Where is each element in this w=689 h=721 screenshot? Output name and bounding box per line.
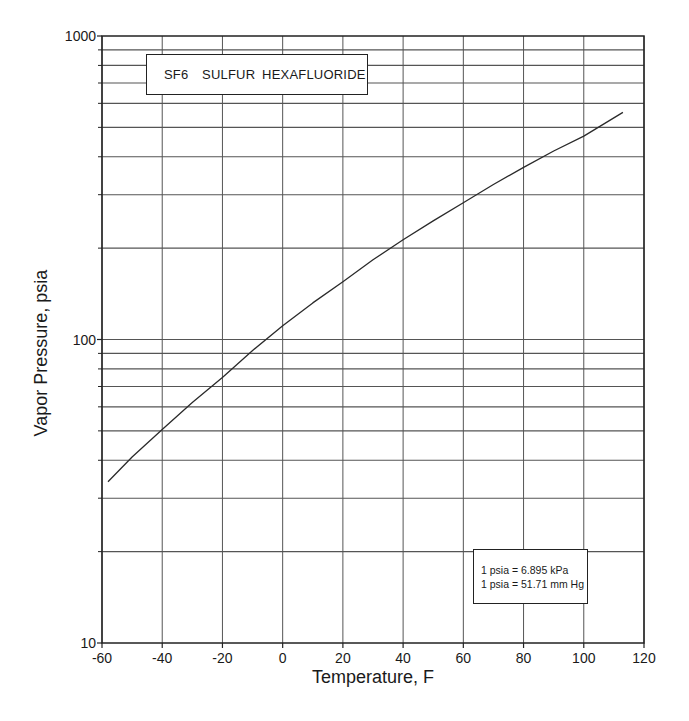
chart-title-box: SF6 SULFUR HEXAFLUORIDE xyxy=(146,54,368,95)
x-tick-label: 60 xyxy=(456,650,472,666)
x-tick-label: -20 xyxy=(212,650,232,666)
x-tick-label: 100 xyxy=(572,650,596,666)
vapor-pressure-curve xyxy=(108,112,623,481)
x-tick-label: -60 xyxy=(92,650,112,666)
x-tick-label: 80 xyxy=(516,650,532,666)
x-tick-label: 40 xyxy=(395,650,411,666)
y-tick-label: 10 xyxy=(80,635,96,651)
x-axis-ticks: -60-40-20020406080100120 xyxy=(92,643,656,666)
unit-conversion-box: 1 psia = 6.895 kPa 1 psia = 51.71 mm Hg xyxy=(473,549,588,604)
x-axis-title: Temperature, F xyxy=(312,667,434,687)
x-tick-label: 20 xyxy=(335,650,351,666)
conversion-mmhg: 1 psia = 51.71 mm Hg xyxy=(481,577,587,591)
conversion-kpa: 1 psia = 6.895 kPa xyxy=(481,563,587,577)
x-tick-label: 0 xyxy=(279,650,287,666)
y-axis-title: Vapor Pressure, psia xyxy=(31,269,51,437)
vapor-pressure-chart: -60-40-20020406080100120 101001000 Tempe… xyxy=(0,0,689,721)
chart-title: SF6 SULFUR HEXAFLUORIDE xyxy=(164,67,366,82)
x-tick-label: 120 xyxy=(632,650,656,666)
data-series xyxy=(108,112,623,481)
x-tick-label: -40 xyxy=(152,650,172,666)
y-axis-ticks: 101001000 xyxy=(65,28,102,651)
y-tick-label: 1000 xyxy=(65,28,96,44)
y-tick-label: 100 xyxy=(73,332,97,348)
